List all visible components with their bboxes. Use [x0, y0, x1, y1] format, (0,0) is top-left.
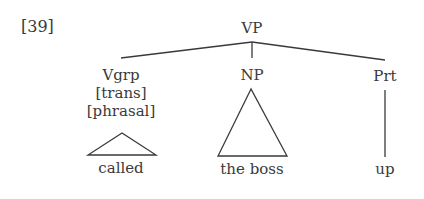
triangle-vgrp — [88, 133, 156, 155]
feature-phrasal: [phrasal] — [87, 102, 156, 120]
tree-edges — [0, 0, 424, 199]
feature-trans: [trans] — [95, 84, 146, 102]
node-vp: VP — [242, 19, 263, 37]
triangle-np — [218, 89, 287, 156]
leaf-the-boss: the boss — [220, 160, 283, 178]
edge-vp-vgrp — [121, 42, 252, 58]
node-prt: Prt — [373, 67, 396, 85]
node-vgrp: Vgrp — [102, 66, 139, 84]
edge-vp-prt — [252, 42, 385, 60]
node-np: NP — [240, 66, 263, 84]
leaf-called: called — [98, 159, 143, 177]
leaf-up: up — [375, 160, 394, 178]
